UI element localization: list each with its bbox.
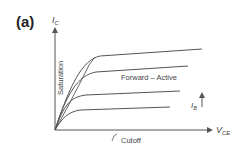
cutoff-label: Cutoff bbox=[121, 136, 142, 145]
curve-ib1 bbox=[55, 107, 170, 130]
bjt-characteristics-diagram: (a) IC VCE Saturation Forward – Active I… bbox=[0, 0, 241, 156]
cutoff-pointer-icon bbox=[112, 134, 117, 141]
x-axis-label: VCE bbox=[216, 125, 231, 136]
forward-active-label: Forward – Active bbox=[121, 73, 177, 82]
ib-label: IB bbox=[191, 101, 197, 111]
curve-ib2 bbox=[55, 91, 180, 130]
panel-label: (a) bbox=[16, 13, 34, 30]
saturation-label: Saturation bbox=[56, 61, 65, 95]
y-axis-label: IC bbox=[52, 15, 60, 26]
